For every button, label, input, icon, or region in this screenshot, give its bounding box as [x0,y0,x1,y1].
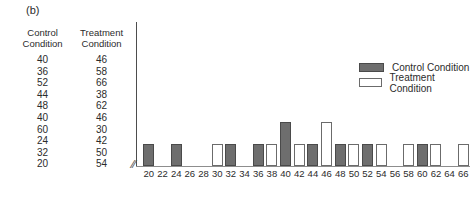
bar-slot [224,35,238,166]
cell-treatment: 42 [71,135,132,147]
column-header-control-line1: Control [16,27,69,38]
column-header-treatment-line1: Treatment [73,27,130,38]
bar-treatment [348,144,359,166]
bar-treatment [266,144,277,166]
x-tick-label: 28 [197,167,211,180]
bar-slot [402,35,416,166]
x-tick-label: 60 [415,167,429,180]
legend-item-treatment: Treatment Condition [359,75,470,90]
panel-label: (b) [26,4,39,16]
table-row: 4438 [14,89,132,101]
x-tick-label: 54 [374,167,388,180]
bar-slot [142,35,156,166]
bar-slot [238,35,252,166]
cell-treatment: 54 [71,158,132,170]
x-tick-label: 62 [429,167,443,180]
cell-treatment: 50 [71,147,132,159]
bar-slot [210,35,224,166]
table-row: 2442 [14,135,132,147]
bar-control [225,144,236,166]
bar-slot [306,35,320,166]
column-header-control: Control Condition [14,27,71,49]
bar-slot [292,35,306,166]
cell-control: 44 [14,89,71,101]
cell-control: 20 [14,158,71,170]
bar-slot [156,35,170,166]
bar-slot [265,35,279,166]
bar-slot [456,35,470,166]
column-header-treatment-line2: Condition [73,38,130,49]
bar-control [307,144,318,166]
x-tick-label: 26 [183,167,197,180]
bar-chart: // 2022242628303234363840424446485052545… [134,22,470,180]
column-header-treatment: Treatment Condition [71,27,132,49]
table-row: 4046 [14,54,132,66]
cell-control: 40 [14,54,71,66]
table-header-row: Control Condition Treatment Condition [14,27,132,49]
bar-slot [361,35,375,166]
bar-slot [333,35,347,166]
table-row: 3250 [14,147,132,159]
data-table: Control Condition Treatment Condition 40… [14,27,132,170]
x-tick-label: 66 [456,167,470,180]
table-row: 4862 [14,100,132,112]
x-tick-label: 38 [265,167,279,180]
table-head: Control Condition Treatment Condition [14,27,132,54]
cell-control: 24 [14,135,71,147]
bar-slot [443,35,457,166]
table-row: 2054 [14,158,132,170]
cell-treatment: 46 [71,112,132,124]
x-tick-label: 46 [320,167,334,180]
raw-data-table: Control Condition Treatment Condition 40… [14,27,132,170]
x-tick-label: 50 [347,167,361,180]
table-row: 5266 [14,77,132,89]
cell-control: 32 [14,147,71,159]
bar-control [143,144,154,166]
column-header-control-line2: Condition [16,38,69,49]
x-tick-label: 30 [210,167,224,180]
x-tick-label: 52 [361,167,375,180]
bar-treatment [430,144,441,166]
bar-slot [388,35,402,166]
bar-slot [279,35,293,166]
cell-control: 60 [14,124,71,136]
cell-treatment: 62 [71,100,132,112]
bar-treatment [376,144,387,166]
legend-swatch-treatment-icon [359,78,382,87]
table-row: 3658 [14,66,132,78]
bar-treatment [212,144,223,166]
bar-control [417,144,428,166]
cell-treatment: 38 [71,89,132,101]
x-tick-label: 34 [238,167,252,180]
bar-slot [347,35,361,166]
x-tick-label: 58 [402,167,416,180]
x-tick-label: 42 [292,167,306,180]
cell-control: 40 [14,112,71,124]
bar-slot [251,35,265,166]
bar-control [362,144,373,166]
bar-treatment [321,122,332,166]
x-tick-label: 36 [251,167,265,180]
cell-treatment: 58 [71,66,132,78]
bar-slot [415,35,429,166]
table-row: 4046 [14,112,132,124]
bar-treatment [403,144,414,166]
bar-slot [320,35,334,166]
bar-slot [183,35,197,166]
cell-treatment: 30 [71,124,132,136]
plot-area [142,35,470,166]
table-row: 6030 [14,124,132,136]
x-tick-label: 32 [224,167,238,180]
x-tick-label: 56 [388,167,402,180]
bar-control [171,144,182,166]
cell-control: 52 [14,77,71,89]
legend-label-treatment: Treatment Condition [390,72,470,94]
x-tick-label: 64 [443,167,457,180]
bar-control [253,144,264,166]
bar-slot [374,35,388,166]
x-axis-tick-labels: 2022242628303234363840424446485052545658… [142,167,470,180]
cell-treatment: 66 [71,77,132,89]
bar-treatment [458,144,469,166]
x-tick-label: 20 [142,167,156,180]
x-tick-label: 22 [156,167,170,180]
